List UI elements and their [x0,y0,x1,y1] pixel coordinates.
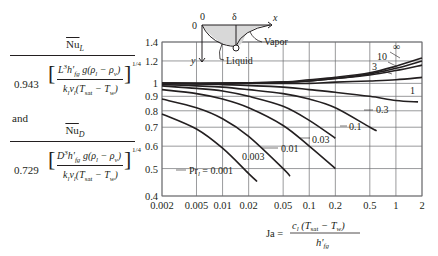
y-tick-label: 1.2 [145,56,158,67]
curve-label-∞: ∞ [393,41,400,52]
curve-label-3: 3 [372,61,377,72]
inset-x-label: x [272,12,278,23]
ja-label: Ja = [266,228,283,239]
x-tick-label: 0.02 [239,200,257,211]
curve-label-0.1: 0.1 [349,121,362,132]
label-leader [388,62,396,66]
inset-top-origin-label: 0 [200,11,205,22]
x-tick-label: 0.005 [185,200,209,211]
inset-vapor-label: Vapor [264,36,289,47]
y-tick-label: 1 [153,78,158,89]
ja-numerator: cl (Tsat − Tw) [292,220,345,233]
x-tick-label: 0.05 [274,200,292,211]
inset-y-label: y [190,55,196,66]
liquid-leader [219,44,224,60]
inset-liquid-label: Liquid [226,55,253,66]
x-axis-label: Ja = cl (Tsat − Tw) h′fg [266,220,360,250]
x-tick-label: 0.2 [329,200,342,211]
curves [162,58,422,182]
curve-label-1: 1 [410,85,415,96]
droplet-icon [233,45,239,51]
y-tick-label: 1.4 [145,37,159,48]
curve-label-0.01: 0.01 [281,143,299,154]
x-tick-label: 0.5 [363,200,376,211]
curve-label-10: 10 [377,51,387,62]
label-leader [390,52,400,58]
y-tick-label: 0.6 [145,141,158,152]
curve-label-0.001: Prl = 0.001 [189,165,233,178]
x-tick-label: 1 [393,200,398,211]
inset-diagram: 0 0 δ x y Vapor Liquid [190,11,289,66]
y-tick-label: 0.8 [145,106,158,117]
y-tick-label: 0.7 [145,122,158,133]
x-tick-label: 0.01 [213,200,231,211]
inset-origin-label: 0 [192,20,197,31]
x-tick-label: 2 [419,200,424,211]
chart: 0.0020.0050.010.020.050.10.20.5120.40.50… [0,0,438,256]
curve-labels: Prl = 0.0010.0030.010.030.10.31310∞ [176,41,415,178]
curve-label-0.003: 0.003 [242,151,265,162]
curve-label-0.03: 0.03 [312,134,330,145]
ja-denominator: h′fg [316,237,329,250]
vapor-leader [250,32,262,42]
x-tick-label: 0.1 [303,200,316,211]
y-tick-label: 0.9 [145,91,158,102]
curve-label-0.3: 0.3 [376,104,389,115]
y-tick-label: 0.4 [145,191,159,202]
y-tick-label: 0.5 [145,164,158,175]
inset-delta-label: δ [232,11,237,22]
